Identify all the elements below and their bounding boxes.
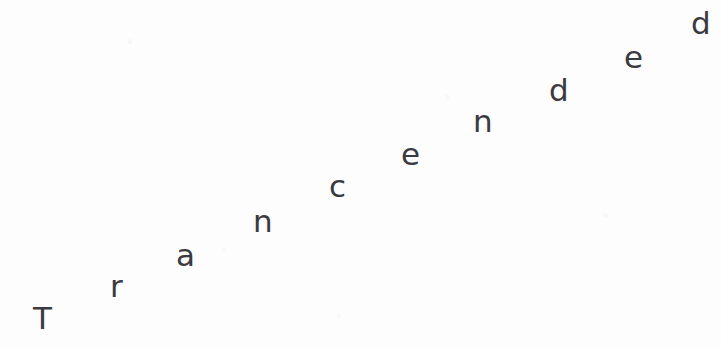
- letter-glyph: e: [401, 139, 420, 170]
- letter-glyph: a: [176, 240, 195, 271]
- letter-glyph: n: [253, 206, 273, 237]
- letter-glyph: n: [473, 106, 493, 137]
- letter-glyph: e: [624, 42, 643, 73]
- letter-glyph: c: [329, 171, 346, 202]
- canvas: Trancended: [0, 0, 721, 347]
- letter-glyph: d: [691, 8, 711, 39]
- letter-glyph: r: [110, 271, 123, 302]
- letter-glyph: d: [549, 75, 569, 106]
- letter-glyph: T: [33, 303, 52, 334]
